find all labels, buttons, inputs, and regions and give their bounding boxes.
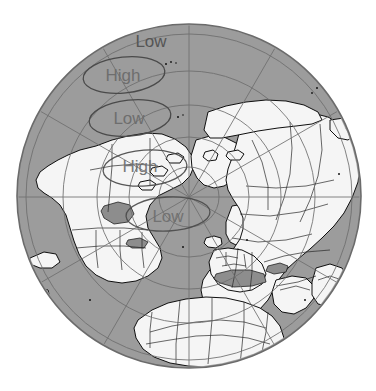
annotation-label-high-lower: High (123, 157, 158, 176)
map-figure: Low High Low High Low (0, 0, 376, 391)
polar-map[interactable]: Low High Low High Low (0, 0, 376, 391)
annotation-label-low-middle: Low (113, 109, 145, 128)
annotation-label-low-bottom: Low (152, 207, 184, 226)
annotation-low-top[interactable]: Low (135, 32, 167, 51)
annotation-label-high-upper: High (106, 66, 141, 85)
annotation-label-low-top: Low (135, 32, 167, 51)
